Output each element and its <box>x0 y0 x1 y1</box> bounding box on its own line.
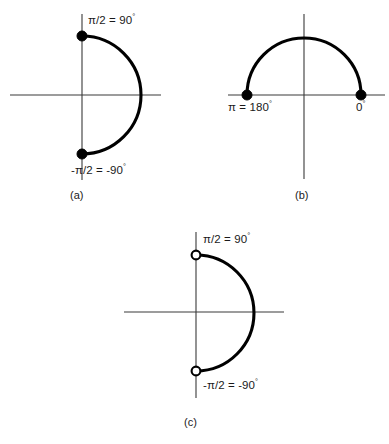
label-neg-pi-over-2-a: -π/2 = -90° <box>71 163 126 176</box>
label-pi-over-2-c: π/2 = 90° <box>203 232 250 245</box>
panel-c: π/2 = 90° -π/2 = -90° (c) <box>100 220 300 444</box>
panel-a: π/2 = 90° -π/2 = -90° (a) <box>0 0 195 215</box>
caption-panel-b: (b) <box>295 189 308 201</box>
semicircle-arc-c <box>196 255 254 371</box>
degree-symbol: ° <box>269 99 272 108</box>
label-pi-over-2-a: π/2 = 90° <box>88 13 135 26</box>
label-neg-pi-over-2-c: -π/2 = -90° <box>203 378 258 391</box>
label-zero-b: 0° <box>356 100 366 113</box>
degree-symbol: ° <box>247 231 250 240</box>
degree-symbol: ° <box>363 99 366 108</box>
panel-b: π = 180° 0° (b) <box>195 0 389 215</box>
endpoint-marker-open-bottom-c <box>192 367 201 376</box>
degree-symbol: ° <box>132 12 135 21</box>
caption-panel-a: (a) <box>70 189 83 201</box>
caption-panel-c: (c) <box>184 416 197 428</box>
endpoint-marker-open-top-c <box>192 251 201 260</box>
label-pi-180-b: π = 180° <box>228 100 272 113</box>
degree-symbol: ° <box>123 162 126 171</box>
endpoint-marker-filled-top-a <box>77 31 87 41</box>
panel-a-plot <box>0 0 195 215</box>
endpoint-marker-filled-left-b <box>242 90 252 100</box>
panel-c-plot <box>100 220 300 444</box>
endpoint-marker-filled-bottom-a <box>77 149 87 159</box>
figure-root: π/2 = 90° -π/2 = -90° (a) π = 180° 0° (b… <box>0 0 389 444</box>
degree-symbol: ° <box>255 377 258 386</box>
